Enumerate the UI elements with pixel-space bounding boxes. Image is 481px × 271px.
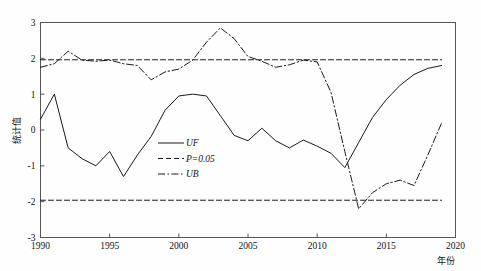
x-tick-label: 2000 — [169, 241, 188, 251]
series-line-ub — [41, 28, 442, 209]
y-tick-label: 1 — [31, 90, 36, 100]
legend-label-p-0-05: P=0.05 — [185, 154, 215, 164]
legend-label-ub: UB — [186, 169, 199, 179]
series-line-uf — [41, 66, 442, 177]
x-tick-label: 2015 — [377, 241, 396, 251]
plot-frame — [41, 23, 456, 238]
x-tick-label: 2010 — [308, 241, 327, 251]
chart-container: -3-2-101231990199520002005201020152020统计… — [0, 0, 481, 271]
x-tick-label: 2005 — [239, 241, 258, 251]
y-tick-label: 3 — [31, 18, 36, 28]
x-axis-title: 年份 — [437, 255, 455, 266]
x-tick-label: 2020 — [446, 241, 465, 251]
y-tick-label: 2 — [31, 54, 36, 64]
x-tick-label: 1995 — [100, 241, 119, 251]
y-tick-label: -1 — [28, 161, 36, 171]
x-tick-label: 1990 — [31, 241, 50, 251]
y-axis-title: 统计值 — [11, 117, 22, 144]
mann-kendall-trend-chart: -3-2-101231990199520002005201020152020统计… — [0, 0, 481, 271]
legend-label-uf: UF — [186, 138, 199, 148]
y-tick-label: -2 — [28, 197, 36, 207]
y-tick-label: 0 — [31, 125, 36, 135]
